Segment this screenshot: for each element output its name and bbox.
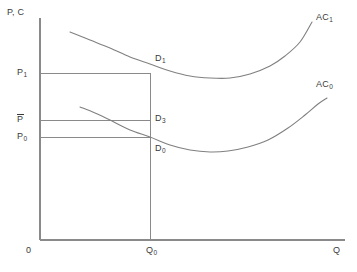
curve-ac0-main: AC bbox=[316, 79, 329, 89]
curve-label-ac1: AC1 bbox=[316, 13, 333, 22]
x-tick-q0-main: Q bbox=[146, 245, 153, 255]
point-d3-sub: 3 bbox=[162, 117, 166, 124]
point-d1-main: D bbox=[155, 53, 162, 63]
y-tick-label-pbar: P bbox=[17, 114, 23, 124]
x-tick-q0-sub: 0 bbox=[154, 249, 158, 256]
point-label-d0: D0 bbox=[155, 144, 166, 153]
curve-label-ac0: AC0 bbox=[316, 80, 333, 89]
curve-ac1-main: AC bbox=[316, 12, 329, 22]
point-d3-main: D bbox=[155, 113, 162, 123]
y-tick-label-p0: P0 bbox=[17, 132, 27, 141]
curve-ac0-sub: 0 bbox=[329, 83, 333, 90]
point-d1-sub: 1 bbox=[162, 57, 166, 64]
curve-ac1 bbox=[70, 22, 312, 78]
x-tick-label-q0: Q0 bbox=[146, 246, 157, 255]
y-tick-p1-sub: 1 bbox=[24, 71, 28, 78]
origin-label: 0 bbox=[26, 246, 31, 255]
x-axis-label: Q bbox=[333, 246, 340, 255]
point-d0-main: D bbox=[155, 143, 162, 153]
average-cost-curves-plot bbox=[0, 0, 357, 272]
curve-ac1-sub: 1 bbox=[329, 16, 333, 23]
curve-ac0 bbox=[80, 98, 327, 152]
y-tick-p0-sub: 0 bbox=[24, 135, 28, 142]
y-axis-label: P, C bbox=[7, 8, 24, 17]
point-label-d1: D1 bbox=[155, 54, 166, 63]
diagram-canvas: P, C Q 0 Q0 P1 P P0 D1 D3 D0 AC1 AC0 bbox=[0, 0, 357, 272]
point-label-d3: D3 bbox=[155, 114, 166, 123]
y-tick-p1-main: P bbox=[17, 67, 23, 77]
point-d0-sub: 0 bbox=[162, 147, 166, 154]
y-tick-pbar-main: P bbox=[17, 114, 23, 124]
y-tick-p0-main: P bbox=[17, 131, 23, 141]
y-tick-label-p1: P1 bbox=[17, 68, 27, 77]
